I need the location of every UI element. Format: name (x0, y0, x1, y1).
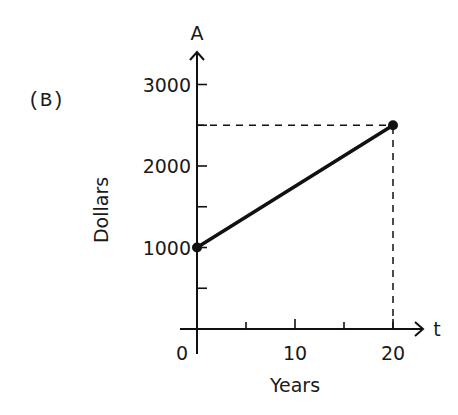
x-tick-label: 10 (283, 342, 307, 364)
data-point (388, 120, 398, 130)
panel-label: (B) (28, 89, 64, 112)
x-tick-label: 20 (381, 342, 405, 364)
series (192, 120, 398, 252)
y-tick-label: 1000 (143, 237, 191, 259)
labels: 01020100020003000AtYearsDollars (90, 22, 441, 396)
x-tick-label: 0 (176, 342, 188, 364)
x-axis-title: Years (269, 374, 320, 396)
y-axis-title: Dollars (90, 177, 112, 243)
series-line (197, 125, 393, 247)
axes (180, 52, 423, 354)
chart: (B) 01020100020003000AtYearsDollars (0, 0, 458, 415)
y-tick-label: 3000 (143, 74, 191, 96)
x-axis-name: t (433, 318, 440, 340)
y-axis-name: A (191, 22, 204, 44)
y-tick-label: 2000 (143, 155, 191, 177)
data-point (192, 243, 202, 253)
